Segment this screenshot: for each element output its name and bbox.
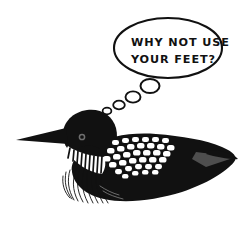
bubble-text-line-2: YOUR FEET? [130,53,216,66]
cartoon-stage: WHY NOT USE YOUR FEET? [0,0,246,226]
loon-cartoon-illustration: WHY NOT USE YOUR FEET? [0,0,246,226]
trail-bubble-1 [141,79,160,93]
bubble-text-line-1: WHY NOT USE [131,36,230,49]
trail-bubble-3 [113,101,125,110]
trail-bubble-2 [126,91,141,102]
